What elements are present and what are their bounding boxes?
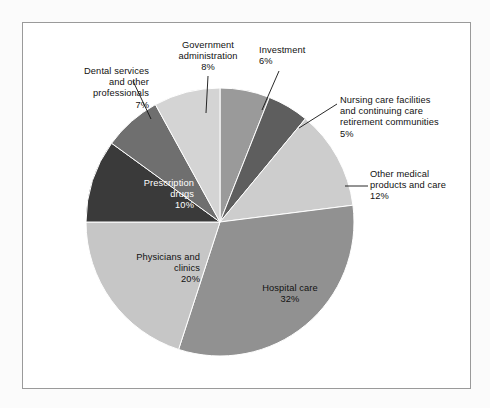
pie-slice-label: Government administration 8% bbox=[160, 40, 256, 74]
pie-slice-label: Prescription drugs 10% bbox=[88, 178, 194, 212]
pie-slice-label: Hospital care 32% bbox=[242, 283, 338, 305]
pie-slice-label: Physicians and clinics 20% bbox=[94, 252, 200, 286]
pie-chart: Investment 6%Nursing care facilities and… bbox=[0, 0, 490, 408]
chart-page: Investment 6%Nursing care facilities and… bbox=[0, 0, 490, 408]
pie-slice-label: Investment 6% bbox=[259, 45, 305, 67]
pie-slice-label: Dental services and other professionals … bbox=[43, 66, 149, 111]
pie-slice-label: Nursing care facilities and continuing c… bbox=[340, 95, 439, 140]
pie-slice-group bbox=[86, 88, 354, 356]
pie-slice-label: Other medical products and care 12% bbox=[370, 169, 446, 203]
leader-line bbox=[299, 104, 337, 128]
